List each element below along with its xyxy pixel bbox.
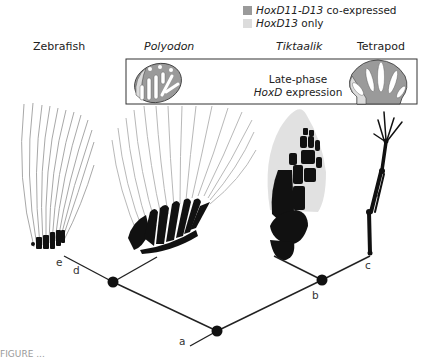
inset-line2: HoxD expression — [248, 86, 348, 99]
node-label-a: a — [179, 335, 185, 347]
zebrafish-fin — [22, 103, 94, 247]
legend-gene: HoxD13 — [256, 17, 298, 29]
polyodon-bones — [128, 198, 210, 254]
legend-item-coexpressed: HoxD11-D13 co-expressed — [243, 4, 397, 16]
inset-box-caption: Late-phase HoxD expression — [248, 73, 348, 99]
tiktaalik-fin — [268, 109, 326, 260]
node-label-d: d — [73, 264, 80, 276]
taxon-label-polyodon: Polyodon — [144, 40, 194, 53]
phylogeny-diagram — [0, 0, 430, 357]
tree-node-d — [108, 277, 119, 288]
tree-nodes — [108, 275, 328, 337]
legend-suffix: co-expressed — [323, 4, 396, 16]
tree-node-a — [212, 326, 223, 337]
legend-item-hoxd13-only: HoxD13 only — [243, 17, 324, 29]
tree-node-b — [317, 275, 328, 286]
tetrapod-limb — [369, 112, 402, 253]
figure-caption-cutoff: FIGURE ... — [0, 349, 430, 357]
polyodon-expression-schematic — [129, 57, 187, 109]
legend-gene: HoxD11-D13 — [256, 4, 323, 16]
tetrapod-expression-schematic — [349, 60, 407, 104]
inset-line1: Late-phase — [248, 73, 348, 86]
legend-swatch-light — [243, 19, 252, 28]
inset-gene: HoxD — [254, 86, 283, 98]
taxon-label-tetrapod: Tetrapod — [357, 40, 405, 53]
legend-swatch-dark — [243, 6, 252, 15]
node-label-b: b — [312, 289, 319, 301]
inset-suffix: expression — [282, 86, 342, 98]
zebrafish-bones — [31, 230, 65, 249]
taxon-label-zebrafish: Zebrafish — [33, 40, 85, 53]
node-label-c: c — [365, 259, 371, 271]
node-label-e: e — [56, 256, 62, 268]
legend-suffix: only — [298, 17, 324, 29]
taxon-label-tiktaalik: Tiktaalik — [276, 40, 322, 53]
